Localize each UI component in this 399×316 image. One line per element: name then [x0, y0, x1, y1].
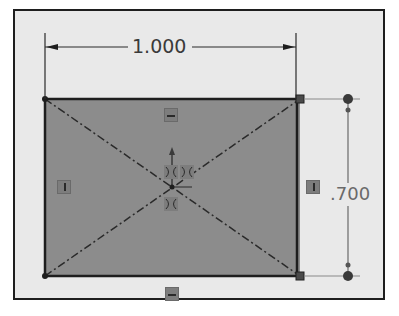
arrow-left-icon [46, 44, 58, 50]
horizontal-relation-icon[interactable] [165, 287, 179, 301]
center-point[interactable] [170, 185, 175, 190]
height-dimension[interactable]: .700 [328, 185, 372, 203]
dimension-handle-bottom[interactable] [343, 271, 353, 281]
arrow-right-icon [283, 44, 295, 50]
vertical-relation-icon[interactable] [306, 180, 320, 194]
coincident-relation-icon[interactable] [164, 197, 178, 211]
width-dimension[interactable]: 1.000 [128, 37, 190, 56]
vertical-line-glyph [313, 183, 315, 191]
corner-point-bottom-right[interactable] [296, 272, 304, 280]
vertical-relation-icon[interactable] [57, 180, 71, 194]
vertical-line-glyph [64, 183, 66, 191]
horizontal-line-glyph [167, 115, 175, 117]
corner-point-top-right[interactable] [296, 95, 304, 103]
corner-point-bottom-left[interactable] [42, 273, 48, 279]
arrow-up-icon [346, 108, 351, 113]
coincident-relation-icon[interactable] [180, 165, 194, 179]
horizontal-relation-icon[interactable] [164, 108, 178, 122]
horizontal-line-glyph [168, 294, 176, 296]
dimension-handle-top[interactable] [343, 94, 353, 104]
arrow-down-icon [346, 263, 351, 268]
coincident-relation-icon[interactable] [164, 165, 178, 179]
sketch-canvas[interactable] [0, 0, 399, 316]
